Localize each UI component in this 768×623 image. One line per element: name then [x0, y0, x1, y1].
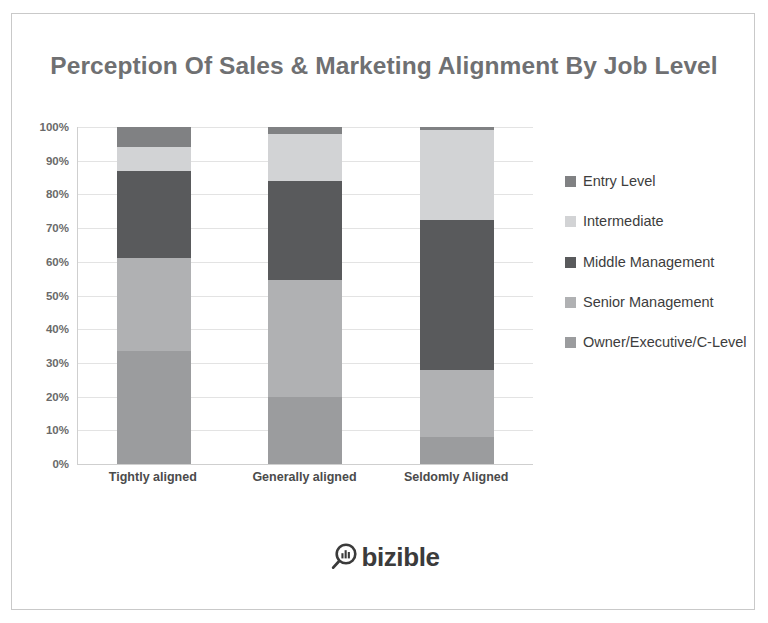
bar-column[interactable] — [78, 127, 230, 464]
stacked-bar[interactable] — [268, 127, 342, 464]
bar-segment[interactable] — [268, 127, 342, 134]
bar-segment[interactable] — [117, 351, 191, 464]
legend-item[interactable]: Entry Level — [565, 172, 750, 191]
y-axis-tick: 70% — [46, 222, 69, 234]
screenshot-root: Perception Of Sales & Marketing Alignmen… — [0, 0, 768, 623]
bizible-logo: bizible — [12, 541, 756, 573]
bar-column[interactable] — [381, 127, 533, 464]
chart-container: Perception Of Sales & Marketing Alignmen… — [11, 13, 755, 610]
bar-segment[interactable] — [420, 437, 494, 464]
bar-segment[interactable] — [420, 127, 494, 130]
bar-segment[interactable] — [117, 171, 191, 259]
bar-segment[interactable] — [420, 220, 494, 370]
bar-column[interactable] — [230, 127, 382, 464]
x-axis-tick: Seldomly Aligned — [404, 470, 508, 484]
bar-segment[interactable] — [117, 127, 191, 147]
bar-segment[interactable] — [268, 181, 342, 280]
y-axis-tick: 0% — [52, 458, 69, 470]
y-axis-tick-labels: 0%10%20%30%40%50%60%70%80%90%100% — [25, 114, 73, 464]
plot-area — [77, 127, 533, 465]
bar-segment[interactable] — [420, 130, 494, 219]
legend-swatch-icon — [565, 216, 576, 227]
bar-segment[interactable] — [117, 147, 191, 171]
bar-segment[interactable] — [268, 397, 342, 464]
x-axis-tick: Generally aligned — [252, 470, 356, 484]
legend-label: Senior Management — [583, 293, 714, 312]
logo-wordmark: bizible — [361, 544, 439, 570]
chart-legend: Entry LevelIntermediateMiddle Management… — [565, 172, 750, 373]
bar-segment[interactable] — [117, 258, 191, 351]
y-axis-tick: 10% — [46, 424, 69, 436]
x-axis-tick-labels: Tightly alignedGenerally alignedSeldomly… — [77, 470, 532, 494]
y-axis-tick: 20% — [46, 391, 69, 403]
legend-swatch-icon — [565, 257, 576, 268]
y-axis-tick: 60% — [46, 256, 69, 268]
y-axis-tick: 40% — [46, 323, 69, 335]
chart-title: Perception Of Sales & Marketing Alignmen… — [12, 52, 756, 80]
legend-label: Owner/Executive/C-Level — [583, 333, 747, 352]
y-axis-tick: 100% — [40, 121, 69, 133]
x-axis-tick: Tightly aligned — [109, 470, 197, 484]
legend-label: Entry Level — [583, 172, 656, 191]
bar-segment[interactable] — [420, 370, 494, 437]
legend-item[interactable]: Middle Management — [565, 253, 750, 272]
legend-label: Middle Management — [583, 253, 714, 272]
y-axis-tick: 80% — [46, 188, 69, 200]
bar-segment[interactable] — [268, 134, 342, 181]
stacked-bar[interactable] — [117, 127, 191, 464]
legend-swatch-icon — [565, 297, 576, 308]
y-axis-tick: 50% — [46, 290, 69, 302]
magnifier-bar-chart-icon — [328, 541, 360, 573]
plot-wrapper: 0%10%20%30%40%50%60%70%80%90%100% Tightl… — [25, 114, 545, 504]
legend-item[interactable]: Owner/Executive/C-Level — [565, 333, 750, 352]
y-axis-tick: 90% — [46, 155, 69, 167]
legend-item[interactable]: Intermediate — [565, 212, 750, 231]
stacked-bar[interactable] — [420, 127, 494, 464]
bar-segment[interactable] — [268, 280, 342, 396]
legend-swatch-icon — [565, 337, 576, 348]
legend-label: Intermediate — [583, 212, 664, 231]
legend-item[interactable]: Senior Management — [565, 293, 750, 312]
y-axis-tick: 30% — [46, 357, 69, 369]
bars-layer — [78, 127, 533, 464]
legend-swatch-icon — [565, 176, 576, 187]
